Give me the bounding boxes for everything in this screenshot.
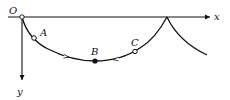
origin-point <box>20 15 24 19</box>
point-a-label: A <box>39 27 47 38</box>
point-a-marker <box>32 36 37 41</box>
cycloid-diagram: O x y A B C <box>0 0 230 100</box>
y-axis-label: y <box>16 86 23 97</box>
point-c-marker <box>133 49 137 53</box>
x-axis-label: x <box>214 11 220 22</box>
origin-label: O <box>9 5 17 16</box>
point-b-marker <box>92 58 97 63</box>
point-b-label: B <box>90 46 98 57</box>
cycloid-arch-2 <box>167 17 207 55</box>
point-c-label: C <box>131 37 139 48</box>
